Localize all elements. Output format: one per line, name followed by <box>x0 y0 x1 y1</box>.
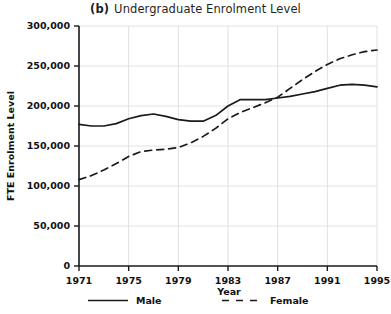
chart-figure: (b)Undergraduate Enrolment Level 1971197… <box>0 0 391 314</box>
x-tick-label: 1979 <box>165 275 191 286</box>
x-tick-label: 1975 <box>115 275 141 286</box>
y-tick-label: 300,000 <box>27 20 71 31</box>
chart-legend: MaleFemale <box>88 295 309 306</box>
x-tick-label: 1983 <box>215 275 241 286</box>
y-tick-label: 0 <box>63 260 70 271</box>
y-tick-labels: 050,000100,000150,000200,000250,000300,0… <box>27 20 71 271</box>
x-tick-label: 1995 <box>364 275 390 286</box>
x-axis-title: Year <box>216 286 241 297</box>
y-tick-label: 150,000 <box>27 140 71 151</box>
y-axis-title: FTE Enrolment Level <box>5 91 16 201</box>
legend-label-male: Male <box>136 295 162 306</box>
y-tick-label: 200,000 <box>27 100 71 111</box>
x-tick-label: 1971 <box>66 275 92 286</box>
y-tick-label: 100,000 <box>27 180 71 191</box>
line-chart: 1971197519791983198719911995 050,000100,… <box>0 0 391 314</box>
x-tick-labels: 1971197519791983198719911995 <box>66 275 390 286</box>
legend-label-female: Female <box>270 295 309 306</box>
x-tick-label: 1987 <box>264 275 290 286</box>
x-tick-label: 1991 <box>314 275 340 286</box>
y-tick-label: 250,000 <box>27 60 71 71</box>
y-tick-label: 50,000 <box>33 220 70 231</box>
